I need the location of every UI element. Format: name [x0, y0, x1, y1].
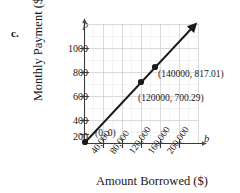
x-axis [84, 139, 203, 148]
data-point-120000 [138, 79, 144, 85]
data-line [85, 28, 193, 143]
data-point-origin [82, 139, 88, 145]
figure-container: c. Monthly Payment ($) Amount Borrowed (… [0, 0, 240, 193]
plot-canvas [0, 0, 240, 193]
y-axis [80, 22, 89, 143]
point-label-140000: (140000, 817.01) [158, 69, 224, 79]
point-label-120000: (120000, 700.29) [138, 93, 204, 103]
point-label-origin: (0, 0) [95, 128, 116, 138]
